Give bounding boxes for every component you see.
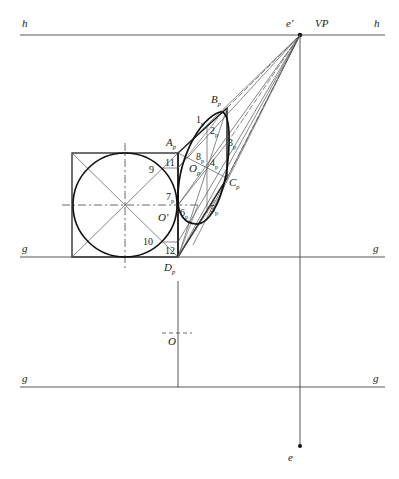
label-horizon-left: h: [22, 17, 28, 29]
svg-text:12: 12: [165, 245, 175, 256]
label-eye: e: [288, 451, 293, 463]
label-point-9: 9: [149, 164, 154, 175]
svg-text:e': e': [286, 17, 294, 29]
label-vp: VP: [315, 17, 329, 29]
svg-text:10: 10: [143, 236, 153, 247]
svg-text:6p: 6p: [180, 207, 188, 220]
label-point-12: 12: [165, 245, 175, 256]
label-Op: O: [189, 162, 197, 174]
svg-text:Bp: Bp: [211, 93, 222, 107]
eye-point-dot: [298, 444, 302, 448]
svg-text:4p: 4p: [210, 157, 218, 170]
label-eye-prime: e': [286, 17, 294, 29]
svg-text:h: h: [374, 17, 380, 29]
perspective-diagram: h h e' VP g g g g e O O' Ap Bp Cp Dp Op …: [0, 0, 399, 479]
svg-text:g: g: [22, 242, 28, 254]
svg-text:O': O': [158, 211, 169, 223]
svg-text:VP: VP: [315, 17, 329, 29]
svg-text:g: g: [22, 372, 28, 384]
svg-text:O: O: [168, 335, 176, 347]
svg-text:9: 9: [149, 164, 154, 175]
svg-text:8p: 8p: [196, 151, 204, 164]
svg-text:1p: 1p: [196, 114, 204, 127]
label-ground-upper-left: g: [22, 242, 28, 254]
svg-text:h: h: [22, 17, 28, 29]
svg-text:11: 11: [165, 157, 175, 168]
label-ground-lower-right: g: [373, 372, 379, 384]
label-point-11: 11: [165, 157, 175, 168]
label-ground-upper-right: g: [373, 242, 379, 254]
label-ground-lower-left: g: [22, 372, 28, 384]
label-plan-center: O: [168, 335, 176, 347]
svg-text:g: g: [373, 242, 379, 254]
label-D: D: [163, 261, 172, 273]
svg-text:g: g: [373, 372, 379, 384]
label-point-10: 10: [143, 236, 153, 247]
label-front-center: O': [158, 211, 169, 223]
svg-text:7p: 7p: [166, 191, 174, 204]
svg-text:Ap: Ap: [165, 136, 177, 150]
label-horizon-right: h: [374, 17, 380, 29]
svg-text:Cp: Cp: [229, 176, 240, 190]
svg-text:Dp: Dp: [163, 261, 176, 275]
svg-text:2p: 2p: [210, 125, 218, 138]
svg-text:e: e: [288, 451, 293, 463]
